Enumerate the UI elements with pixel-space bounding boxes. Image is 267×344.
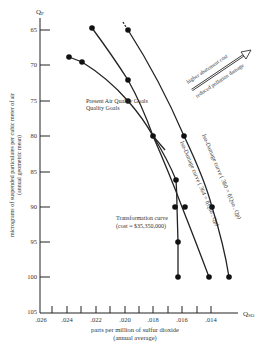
y-axis-label-sub: (annual geometric mean) — [16, 135, 23, 195]
svg-text:100: 100 — [27, 273, 37, 280]
svg-text:.018: .018 — [147, 316, 158, 323]
x-ticks — [52, 306, 211, 313]
y-tick-labels: 65 70 75 80 85 90 95 100 105 — [27, 26, 37, 315]
svg-text:.024: .024 — [61, 316, 73, 323]
data-points — [66, 25, 232, 280]
curve-isodamage-380-dash — [123, 22, 126, 27]
y-axis-symbol: QP — [36, 8, 44, 16]
curves — [69, 22, 229, 277]
label-reduced-pollution-damage: reduced pollution damage — [194, 62, 245, 99]
axes — [40, 18, 238, 313]
x-axis-label-sub: (annual average) — [113, 334, 157, 342]
svg-text:75: 75 — [31, 97, 38, 104]
label-transformation-cost: (cost = $35,350,000) — [116, 223, 166, 230]
svg-text:105: 105 — [27, 308, 37, 315]
svg-text:85: 85 — [31, 168, 38, 175]
svg-text:95: 95 — [31, 238, 38, 245]
x-axis-label: parts per million of sulfur dioxide — [91, 326, 179, 333]
chart: 65 70 75 80 85 90 95 100 105 QP .026 .02… — [0, 0, 267, 344]
svg-text:65: 65 — [31, 26, 38, 33]
x-axis-symbol: QSO — [243, 310, 255, 318]
svg-text:80: 80 — [31, 132, 38, 139]
label-present-air-quality-goals-2: Quality Goals — [86, 105, 120, 111]
curve-isodamage-364 — [153, 136, 209, 277]
svg-text:.014: .014 — [205, 316, 217, 323]
svg-text:.022: .022 — [90, 316, 101, 323]
x-tick-labels: .026 .024 .022 .020 .018 .016 .014 — [35, 316, 217, 323]
svg-text:.020: .020 — [119, 316, 130, 323]
label-transformation-curve: Transformation curve — [116, 215, 168, 221]
label-isodamage-380: Iso-Damage curve ( 380 = f(Qso , Qp) — [200, 133, 242, 220]
svg-text:90: 90 — [31, 203, 38, 210]
curve-transformation — [92, 28, 178, 277]
svg-text:.026: .026 — [35, 316, 47, 323]
svg-text:70: 70 — [31, 61, 38, 68]
label-present-air-quality-goals: Present Air Quality Goals — [86, 98, 148, 104]
y-axis-label: micrograms of suspended particulates per… — [9, 93, 15, 237]
y-ticks — [40, 30, 50, 277]
svg-text:.016: .016 — [176, 316, 188, 323]
